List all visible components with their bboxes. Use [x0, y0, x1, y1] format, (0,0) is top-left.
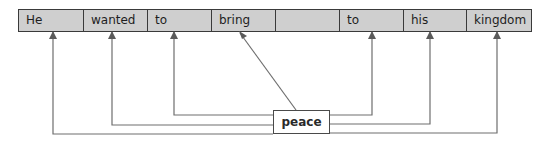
arrow-to-kingdom [330, 32, 497, 133]
arrowhead-icon-kingdom [493, 31, 501, 39]
arrowhead-icon-to-1 [170, 31, 178, 39]
arrowhead-icon-to-2 [368, 31, 376, 39]
arrow-to-bring [240, 33, 296, 110]
source-word-box: peace [273, 110, 330, 134]
arrow-to-his [330, 32, 430, 124]
arrow-to-to-1 [174, 32, 273, 115]
connector-lines [0, 0, 543, 148]
arrow-to-he [53, 32, 273, 134]
arrowhead-icon-wanted [108, 31, 116, 39]
arrow-to-to-2 [330, 32, 372, 115]
arrowhead-icon-his [426, 31, 434, 39]
arrowhead-icon-he [49, 31, 57, 39]
arrowhead-icon-bring [239, 31, 247, 39]
